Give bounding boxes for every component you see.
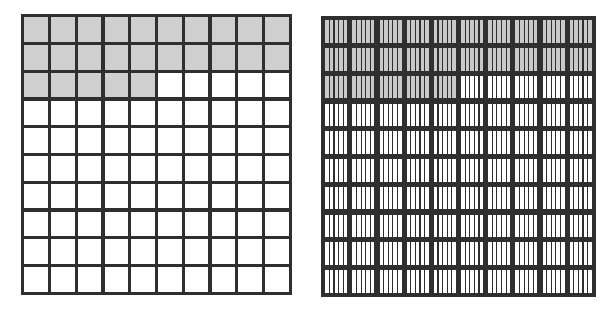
grid-cell: [105, 128, 128, 152]
grid-subcell: [335, 242, 338, 265]
grid-cell: [569, 186, 593, 210]
grid-subcell: [480, 270, 483, 293]
grid-subcell: [393, 187, 396, 210]
grid-subcell: [393, 242, 396, 265]
grid-cell: [460, 158, 484, 182]
grid-cell: [24, 184, 47, 208]
grid-subcell: [529, 159, 532, 182]
grid-subcell-shaded: [411, 20, 414, 43]
grid-subcell: [330, 215, 333, 238]
grid-subcell: [493, 270, 496, 293]
grid-subcell: [543, 104, 546, 127]
grid-cell: [185, 239, 208, 263]
grid-subcell-shaded: [520, 20, 523, 43]
grid-subcell: [475, 131, 478, 154]
grid-subcell: [339, 215, 342, 238]
grid-cell: [158, 101, 181, 125]
grid-subcell: [393, 131, 396, 154]
grid-subcell: [470, 104, 473, 127]
grid-subcell: [357, 187, 360, 210]
grid-subcell: [416, 242, 419, 265]
grid-subcell: [452, 242, 455, 265]
grid-subcell-shaded: [330, 48, 333, 71]
grid-cell: [238, 156, 261, 180]
grid-subcell-shaded: [384, 20, 387, 43]
grid-subcell-shaded: [556, 48, 559, 71]
grid-subcell-shaded: [525, 48, 528, 71]
grid-subcell-shaded: [534, 48, 537, 71]
grid-subcell: [579, 159, 582, 182]
grid-cell: [78, 239, 101, 263]
grid-cell: [352, 241, 376, 265]
grid-cell-shaded: [515, 47, 539, 71]
grid-cell: [212, 73, 235, 97]
grid-subcell: [452, 131, 455, 154]
grid-subcell: [570, 159, 573, 182]
grid-subcell: [421, 159, 424, 182]
grid-subcell: [416, 187, 419, 210]
grid-subcell-shaded: [574, 48, 577, 71]
grid-cell: [542, 214, 566, 238]
grid-cell: [212, 184, 235, 208]
grid-subcell-shaded: [416, 48, 419, 71]
grid-subcell: [339, 242, 342, 265]
grid-subcell: [488, 270, 491, 293]
grid-subcell: [339, 104, 342, 127]
grid-subcell: [556, 76, 559, 99]
grid-cell-shaded: [105, 45, 128, 69]
grid-subcell: [543, 131, 546, 154]
grid-subcell: [466, 76, 469, 99]
grid-subcell: [475, 270, 478, 293]
grid-subcell: [561, 131, 564, 154]
grid-subcell-shaded: [588, 48, 591, 71]
grid-subcell-shaded: [466, 48, 469, 71]
grid-subcell: [335, 131, 338, 154]
grid-cell: [105, 101, 128, 125]
grid-subcell: [352, 159, 355, 182]
grid-subcell: [574, 131, 577, 154]
grid-subcell: [380, 159, 383, 182]
grid-cell: [542, 75, 566, 99]
grid-cell-shaded: [185, 17, 208, 41]
grid-cell: [406, 158, 430, 182]
grid-subcell: [389, 104, 392, 127]
grid-subcell: [529, 242, 532, 265]
grid-subcell: [380, 104, 383, 127]
grid-subcell-shaded: [439, 76, 442, 99]
grid-cell: [406, 130, 430, 154]
grid-subcell: [556, 270, 559, 293]
grid-subcell: [352, 104, 355, 127]
grid-subcell: [520, 159, 523, 182]
grid-subcell-shaded: [407, 76, 410, 99]
grid-cell: [185, 73, 208, 97]
grid-subcell: [344, 187, 347, 210]
grid-subcell: [371, 270, 374, 293]
grid-subcell: [339, 131, 342, 154]
grid-subcell-shaded: [393, 76, 396, 99]
grid-subcell: [357, 242, 360, 265]
grid-cell-shaded: [379, 47, 403, 71]
grid-cell-shaded: [352, 47, 376, 71]
grid-subcell: [507, 159, 510, 182]
grid-subcell: [520, 104, 523, 127]
grid-subcell: [475, 76, 478, 99]
grid-cell-shaded: [51, 17, 74, 41]
grid-cell: [131, 212, 154, 236]
grid-cell: [265, 128, 288, 152]
grid-subcell: [344, 104, 347, 127]
grid-cell: [105, 184, 128, 208]
grid-subcell: [357, 215, 360, 238]
grid-subcell: [507, 242, 510, 265]
grid-subcell-shaded: [574, 20, 577, 43]
grid-subcell: [534, 215, 537, 238]
grid-cell: [24, 239, 47, 263]
grid-subcell: [325, 104, 328, 127]
grid-subcell: [452, 270, 455, 293]
grid-cell-shaded: [105, 17, 128, 41]
grid-subcell: [584, 242, 587, 265]
grid-subcell: [434, 242, 437, 265]
grid-subcell-shaded: [425, 20, 428, 43]
grid-cell: [212, 267, 235, 291]
grid-cell: [238, 184, 261, 208]
grid-subcell-shaded: [529, 48, 532, 71]
